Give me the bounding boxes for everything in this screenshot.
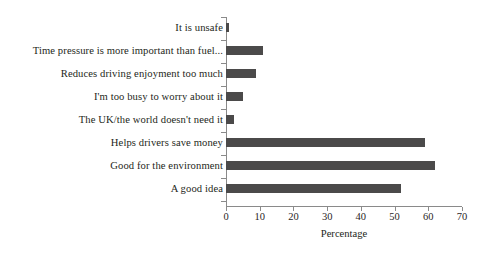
bar — [226, 115, 234, 124]
x-axis-line — [226, 206, 462, 207]
bar — [226, 138, 425, 147]
x-axis-title: Percentage — [226, 228, 462, 240]
bar — [226, 23, 229, 32]
x-axis-tick-label: 40 — [346, 211, 376, 223]
x-axis-tick-label: 20 — [278, 211, 308, 223]
category-label: The UK/the world doesn't need it — [79, 114, 223, 126]
y-axis-tick — [221, 155, 226, 156]
x-axis-tick-label: 10 — [245, 211, 275, 223]
category-label: It is unsafe — [175, 22, 223, 34]
y-axis-tick — [221, 17, 226, 18]
y-axis-tick — [221, 63, 226, 64]
y-axis-tick — [221, 132, 226, 133]
y-axis-tick — [221, 201, 226, 202]
x-axis-tick-label: 30 — [312, 211, 342, 223]
y-axis-tick — [221, 86, 226, 87]
y-axis-tick — [221, 109, 226, 110]
y-axis-tick — [221, 40, 226, 41]
category-label: Good for the environment — [110, 160, 223, 172]
bar — [226, 161, 435, 170]
bar — [226, 46, 263, 55]
x-axis-tick-label: 0 — [211, 211, 241, 223]
category-label: I'm too busy to worry about it — [94, 91, 223, 103]
x-axis-tick-label: 60 — [413, 211, 443, 223]
bar — [226, 184, 401, 193]
y-axis-tick — [221, 178, 226, 179]
plot-area: It is unsafeTime pressure is more import… — [0, 0, 485, 254]
x-axis-tick-label: 50 — [380, 211, 410, 223]
category-label: A good idea — [171, 183, 223, 195]
x-axis-tick-label: 70 — [447, 211, 477, 223]
bar-chart: It is unsafeTime pressure is more import… — [0, 0, 485, 254]
bar — [226, 69, 256, 78]
category-label: Helps drivers save money — [111, 137, 223, 149]
bar — [226, 92, 243, 101]
category-label: Time pressure is more important than fue… — [33, 45, 223, 57]
category-label: Reduces driving enjoyment too much — [61, 68, 223, 80]
